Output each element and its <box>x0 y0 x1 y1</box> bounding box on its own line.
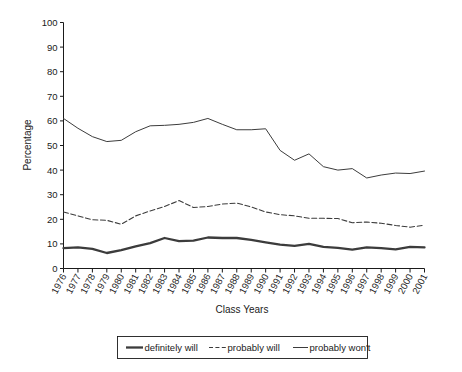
series-line-probably-will <box>64 201 425 228</box>
x-tick-label: 2001 <box>410 272 430 296</box>
y-tick-label: 30 <box>47 189 58 200</box>
line-chart-svg: 0102030405060708090100197619771978197919… <box>0 0 462 372</box>
y-tick-label: 100 <box>42 17 58 28</box>
series-line-definitely-will <box>64 238 425 254</box>
y-tick-label: 90 <box>47 42 58 53</box>
y-axis-title: Percentage <box>22 119 33 171</box>
y-tick-label: 0 <box>52 263 57 274</box>
chart-figure: 0102030405060708090100197619771978197919… <box>0 0 462 372</box>
y-tick-label: 10 <box>47 238 58 249</box>
legend-label: definitely will <box>145 342 198 353</box>
y-tick-label: 50 <box>47 140 58 151</box>
x-axis-title: Class Years <box>216 304 269 315</box>
y-tick-label: 80 <box>47 66 58 77</box>
legend-label: probably won't <box>310 342 371 353</box>
y-tick-label: 20 <box>47 214 58 225</box>
y-tick-label: 40 <box>47 165 58 176</box>
y-tick-label: 70 <box>47 91 58 102</box>
y-tick-label: 60 <box>47 115 58 126</box>
series-line-probably-won-t <box>64 118 425 178</box>
legend-label: probably will <box>228 342 280 353</box>
